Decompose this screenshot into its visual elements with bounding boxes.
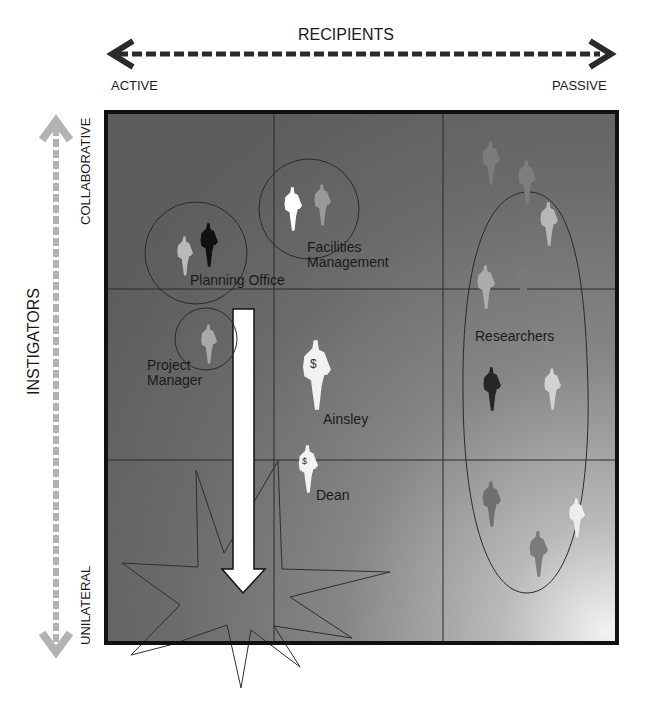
facilities-label-line2: Management [307, 255, 389, 270]
dean-label: Dean [316, 488, 349, 503]
ainsley-label: Ainsley [323, 412, 368, 427]
collaborative-label: COLLABORATIVE [78, 118, 93, 225]
instigators-axis-arrow [42, 121, 70, 652]
active-label: ACTIVE [111, 78, 158, 93]
diagram-canvas: $ $ [0, 0, 651, 704]
instigators-axis-title: INSTIGATORS [25, 288, 43, 395]
recipients-axis-title: RECIPIENTS [298, 26, 394, 44]
dollar-icon: $ [302, 456, 307, 466]
researchers-label: Researchers [475, 329, 554, 344]
unilateral-label: UNILATERAL [78, 566, 93, 645]
project-manager-label-line2: Manager [147, 373, 202, 388]
recipients-axis-arrow [112, 41, 611, 67]
facilities-label-line1: Facilities [307, 240, 361, 255]
project-manager-label-line1: Project [147, 358, 191, 373]
dollar-icon: $ [310, 357, 317, 371]
planning-office-label: Planning Office [190, 273, 285, 288]
passive-label: PASSIVE [552, 78, 607, 93]
